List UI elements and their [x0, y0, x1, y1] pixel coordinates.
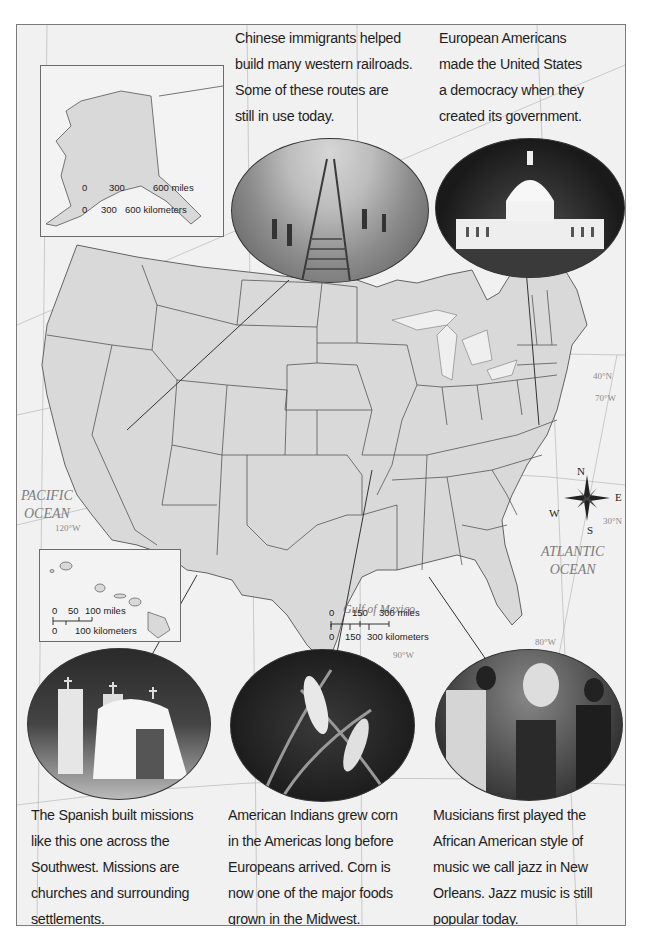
caption-corn-line-2: in the Americas long before: [228, 828, 398, 854]
caption-jazz-line-3: music we call jazz in New: [433, 854, 592, 880]
caption-capitol-line-4: created its government.: [439, 103, 584, 129]
main-scale-mi-150: 150: [352, 607, 368, 618]
compass-rose: [562, 473, 612, 523]
caption-railroad-line-1: Chinese immigrants helped: [235, 25, 412, 51]
compass-w: W: [549, 507, 559, 519]
caption-jazz-line-2: African American style of: [433, 828, 592, 854]
caption-missions-line-2: like this one across the: [31, 828, 193, 854]
compass-n: N: [577, 465, 585, 477]
caption-corn-line-3: Europeans arrived. Corn is: [228, 854, 398, 880]
caption-railroad-line-3: Some of these routes are: [235, 77, 412, 103]
main-scale-km-300: 300 kilometers: [367, 631, 429, 642]
caption-capitol-line-3: a democracy when they: [439, 77, 584, 103]
alaska-inset: 0 300 600 miles 0 300 600 kilometers: [40, 65, 224, 237]
caption-missions-line-3: Southwest. Missions are: [31, 854, 193, 880]
alaska-scale-mi-0: 0: [82, 182, 87, 193]
compass-e: E: [615, 491, 622, 503]
caption-railroad-line-4: still in use today.: [235, 103, 412, 129]
lat-40-label: 40°N: [593, 371, 612, 381]
pacific-line-2: OCEAN: [21, 505, 73, 523]
main-scale-mi-0: 0: [329, 607, 334, 618]
atlantic-ocean-label: ATLANTIC OCEAN: [541, 543, 604, 579]
compass-s: S: [587, 524, 593, 536]
caption-capitol: European Americans made the United State…: [439, 25, 584, 129]
alaska-scale-km-600: 600 kilometers: [125, 204, 187, 215]
caption-jazz-line-4: Orleans. Jazz music is still: [433, 880, 592, 906]
corn-plant-icon: [231, 650, 414, 801]
alaska-scale-km-300: 300: [101, 204, 117, 215]
caption-railroad-line-2: build many western railroads.: [235, 51, 412, 77]
caption-jazz-line-5: popular today.: [433, 906, 592, 926]
lon-120-label: 120°W: [55, 523, 81, 533]
missions-photo: [27, 648, 211, 800]
lon-80-label: 80°W: [535, 637, 556, 647]
mission-church-icon: [28, 649, 210, 799]
alaska-scale-km-0: 0: [82, 204, 87, 215]
main-scale-km-150: 150: [345, 631, 361, 642]
caption-missions: The Spanish built missions like this one…: [31, 802, 193, 926]
alaska-scale-mi-300: 300: [109, 182, 125, 193]
railroad-photo: [231, 138, 429, 283]
caption-corn-line-5: grown in the Midwest.: [228, 906, 398, 926]
caption-missions-line-5: settlements.: [31, 906, 193, 926]
lon-90-label: 90°W: [393, 650, 414, 660]
caption-capitol-line-2: made the United States: [439, 51, 584, 77]
atlantic-line-2: OCEAN: [541, 561, 604, 579]
caption-corn-line-4: now one of the major foods: [228, 880, 398, 906]
map-frame: 0 300 600 miles 0 300 600 kilometers: [16, 24, 626, 926]
caption-jazz: Musicians first played the African Ameri…: [433, 802, 592, 926]
jazz-photo: [435, 649, 623, 801]
atlantic-line-1: ATLANTIC: [541, 543, 604, 561]
main-scale-km-0: 0: [329, 631, 334, 642]
caption-missions-line-4: churches and surrounding: [31, 880, 193, 906]
capitol-photo: [435, 138, 625, 278]
pacific-ocean-label: PACIFIC OCEAN: [21, 487, 73, 523]
caption-corn-line-1: American Indians grew corn: [228, 802, 398, 828]
corn-photo: [230, 649, 415, 802]
hawaii-inset: 0 50 100 miles 0 100 kilometers: [39, 549, 181, 642]
hawaii-scale-mi-50: 50: [68, 605, 79, 616]
hawaii-scale-bar: [52, 617, 102, 627]
hawaii-scale-mi-0: 0: [52, 605, 57, 616]
caption-railroad: Chinese immigrants helped build many wes…: [235, 25, 412, 129]
caption-jazz-line-1: Musicians first played the: [433, 802, 592, 828]
caption-capitol-line-1: European Americans: [439, 25, 584, 51]
alaska-scale-mi-600: 600 miles: [153, 182, 194, 193]
railroad-tracks-icon: [232, 139, 428, 282]
hawaii-scale-mi-100: 100 miles: [85, 605, 126, 616]
jazz-musicians-icon: [436, 650, 622, 800]
pacific-line-1: PACIFIC: [21, 487, 73, 505]
capitol-building-icon: [436, 139, 624, 277]
caption-corn: American Indians grew corn in the Americ…: [228, 802, 398, 926]
compass-star-icon: [562, 473, 612, 523]
main-scale-mi-300: 300 miles: [379, 607, 420, 618]
caption-missions-line-1: The Spanish built missions: [31, 802, 193, 828]
lon-70-label: 70°W: [595, 393, 616, 403]
